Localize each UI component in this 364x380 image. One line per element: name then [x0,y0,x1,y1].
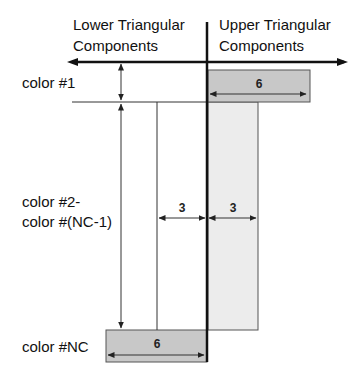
row-label-color-2: color #2- [22,193,80,210]
axis-right-arrow-icon [337,58,348,66]
triangular-components-diagram: Lower Triangular Components Upper Triang… [0,0,364,380]
lower-last-width-label: 6 [154,337,161,351]
row-label-color-nc-minus-1: color #(NC-1) [22,213,112,230]
lower-header-line1: Lower Triangular [73,16,185,33]
upper-middle-width-label: 3 [230,201,237,215]
upper-middle-bar [208,102,258,330]
axis-left-arrow-icon [67,58,78,66]
row-label-color-1: color #1 [22,74,75,91]
upper-first-width-label: 6 [256,77,263,91]
lower-middle-width-label: 3 [179,201,186,215]
upper-header-line1: Upper Triangular [219,16,331,33]
upper-header-line2: Components [219,37,304,54]
lower-header-line2: Components [73,37,158,54]
row-label-color-nc: color #NC [22,338,89,355]
